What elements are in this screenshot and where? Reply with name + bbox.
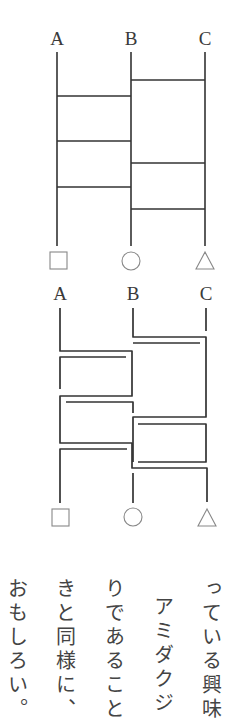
triangle-icon [196, 252, 214, 269]
inner-rung [60, 449, 127, 503]
label-b: B [125, 28, 138, 49]
traced-ladder-svg: A B C [0, 280, 231, 540]
bottom-symbols [52, 508, 216, 526]
text-column-3: りであること [101, 578, 125, 719]
inner-rung [138, 424, 206, 462]
label-c: C [200, 283, 213, 304]
square-icon [50, 252, 67, 269]
amidakuji-traced-paths-diagram: A B C [0, 280, 231, 540]
label-a: A [50, 28, 64, 49]
square-icon [52, 509, 69, 526]
label-b: B [127, 283, 140, 304]
label-c: C [199, 28, 212, 49]
text-column-5: おもしろい。 [4, 578, 28, 719]
ladder-lines [57, 52, 205, 246]
text-column-4: きと同様に、 [52, 578, 76, 719]
ladder-svg: A B C [0, 0, 231, 280]
bottom-symbols [50, 252, 214, 270]
inner-rung [66, 402, 133, 413]
amidakuji-ladder-diagram: A B C [0, 0, 231, 280]
triangle-icon [198, 509, 216, 526]
text-column-2: アミダクジ [150, 596, 174, 716]
text-column-1: っている興味 [198, 578, 222, 719]
circle-icon [122, 252, 140, 270]
traced-paths [60, 308, 207, 503]
path-from-b-upper [133, 308, 206, 462]
inner-rung [60, 357, 126, 389]
circle-icon [124, 508, 142, 526]
label-a: A [53, 283, 67, 304]
vertical-text-block: っている興味 アミダクジ りであること きと同様に、 おもしろい。 [0, 570, 231, 719]
